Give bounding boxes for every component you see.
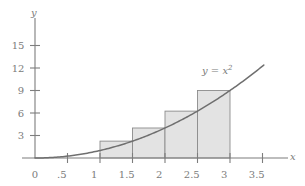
- x-tick-label-0: 0: [25, 170, 45, 180]
- x-tick-label-1.5: 1.5: [114, 170, 140, 180]
- y-axis-label: y: [31, 8, 37, 18]
- x-tick-label-0.5: .5: [52, 170, 72, 180]
- y-tick-label-3: 3: [14, 131, 28, 141]
- y-tick-label-9: 9: [14, 86, 28, 96]
- y-tick-label-6: 6: [14, 109, 28, 119]
- riemann-rectangles: [100, 91, 230, 159]
- chart-canvas: [0, 0, 305, 186]
- x-tick-label-3: 3: [214, 170, 234, 180]
- curve-equation-label: y = x2: [202, 66, 233, 76]
- riemann-sum-figure: y x y = x2 3 6 9 12 15 0 .5 1 1.5 2 2.5 …: [0, 0, 305, 186]
- x-axis-label: x: [290, 152, 296, 162]
- x-tick-label-3.5: 3.5: [244, 170, 270, 180]
- riemann-bar: [133, 128, 166, 158]
- curve-equation-text: y = x: [202, 65, 228, 76]
- x-tick-label-2.5: 2.5: [179, 170, 205, 180]
- y-tick-label-15: 15: [8, 41, 28, 51]
- curve-exponent: 2: [228, 64, 232, 72]
- x-tick-label-2: 2: [149, 170, 169, 180]
- y-tick-label-12: 12: [8, 64, 28, 74]
- riemann-bar: [165, 111, 198, 158]
- x-tick-label-1: 1: [84, 170, 104, 180]
